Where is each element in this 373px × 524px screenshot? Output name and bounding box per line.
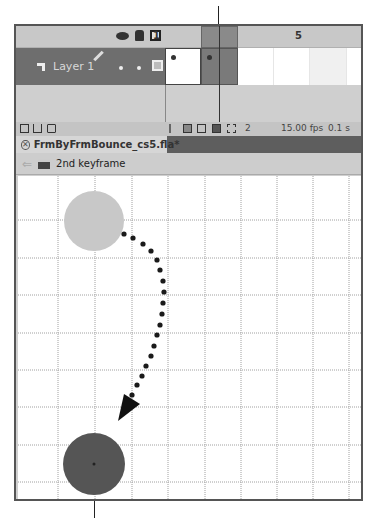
- onion-skin-icon[interactable]: [183, 124, 192, 133]
- flash-window: 1 5 Layer 1 2 15.00 fps 0.1 s: [14, 24, 363, 501]
- new-folder-icon[interactable]: [33, 124, 42, 133]
- keyframe-1[interactable]: [165, 48, 201, 85]
- elapsed-time-label: 0.1 s: [328, 123, 350, 133]
- outline-toggle[interactable]: [152, 60, 163, 71]
- eye-icon[interactable]: [116, 32, 129, 40]
- ball-registration-point: [93, 463, 96, 466]
- timeline-footer: 2 15.00 fps 0.1 s: [16, 122, 361, 136]
- timeline-empty-area: [16, 85, 361, 122]
- layer-icon: [37, 63, 45, 71]
- center-frame-icon[interactable]: [169, 124, 171, 133]
- pencil-icon: [93, 51, 104, 62]
- frame-cell[interactable]: [347, 48, 363, 85]
- motion-path-dots: [121, 231, 166, 397]
- lock-dot[interactable]: [137, 66, 141, 70]
- frames-row[interactable]: [165, 48, 363, 85]
- new-layer-icon[interactable]: [20, 124, 29, 133]
- playhead-line[interactable]: [219, 26, 220, 136]
- document-tab-bar: ✕ FrmByFrmBounce_cs5.fla*: [16, 136, 361, 153]
- timeline-header: 1 5: [16, 26, 361, 48]
- document-tab-label: FrmByFrmBounce_cs5.fla*: [34, 139, 180, 150]
- fps-label[interactable]: 15.00 fps: [281, 123, 323, 133]
- keyframe-dot: [207, 55, 212, 60]
- frame-number-5: 5: [295, 30, 302, 41]
- frame-number-1: 1: [153, 30, 160, 41]
- frame-cell[interactable]: [274, 48, 310, 85]
- frame-cell[interactable]: [238, 48, 274, 85]
- delete-icon[interactable]: [47, 124, 56, 133]
- close-tab-icon[interactable]: ✕: [21, 140, 30, 150]
- back-arrow-icon[interactable]: ⇐: [22, 157, 32, 171]
- stage-canvas: [18, 176, 363, 501]
- visibility-dot[interactable]: [119, 66, 123, 70]
- current-frame-label: 2: [245, 123, 251, 133]
- scene-clapper-icon: [38, 159, 50, 169]
- onion-skin-outline-icon[interactable]: [197, 124, 206, 133]
- scene-label[interactable]: 2nd keyframe: [56, 158, 125, 169]
- edit-multiple-frames-icon[interactable]: [212, 124, 221, 133]
- keyframe-dot: [171, 55, 176, 60]
- edit-bar: ⇐ 2nd keyframe: [16, 153, 361, 175]
- stage[interactable]: [18, 176, 363, 501]
- timeline-divider: [165, 85, 166, 122]
- document-tab[interactable]: ✕ FrmByFrmBounce_cs5.fla*: [16, 136, 167, 153]
- layer-name[interactable]: Layer 1: [53, 60, 94, 73]
- onion-skin-ball: [64, 191, 124, 251]
- lock-icon[interactable]: [135, 30, 144, 41]
- frame-cell[interactable]: [310, 48, 347, 85]
- layer-row[interactable]: Layer 1: [16, 48, 165, 85]
- modify-onion-markers-icon[interactable]: [227, 124, 236, 133]
